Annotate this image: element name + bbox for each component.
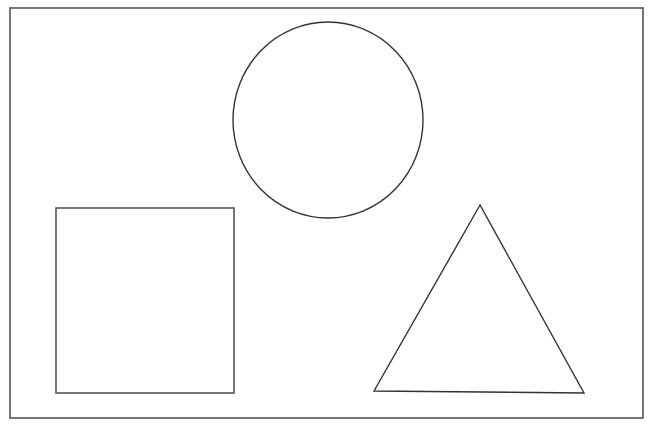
diagram-canvas: [0, 0, 655, 429]
outer-frame: [10, 8, 643, 418]
circle-shape: [233, 22, 423, 218]
square-shape: [56, 208, 234, 393]
triangle-shape: [374, 205, 584, 393]
